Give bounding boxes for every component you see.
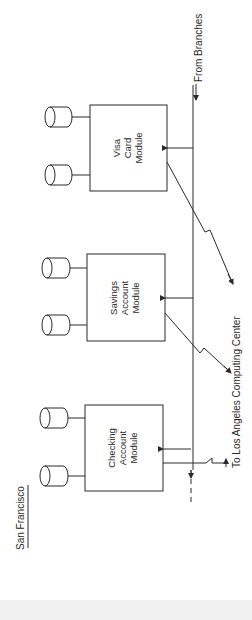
- checking-line-2: Account: [117, 430, 128, 465]
- visa-line-3: Module: [133, 132, 144, 163]
- disk-icon: [40, 408, 68, 428]
- to-la-label: To Los Angeles Computing Center: [231, 316, 242, 468]
- checking-line-3: Module: [128, 432, 139, 463]
- savings-line-1: Savings: [108, 281, 119, 315]
- disk-icon: [45, 107, 72, 127]
- savings-line-2: Account: [119, 280, 130, 315]
- disk-icon: [45, 165, 72, 185]
- location-label: San Francisco: [15, 486, 26, 550]
- visa-line-1: Visa: [111, 138, 122, 157]
- disk-icon: [42, 258, 70, 278]
- visa-module: [45, 105, 233, 284]
- savings-line-3: Module: [130, 282, 141, 313]
- bank-network-diagram: From Branches To Los Angeles Computing C…: [0, 0, 252, 620]
- from-branches-label: From Branches: [193, 14, 204, 82]
- checking-line-1: Checking: [106, 428, 117, 468]
- disk-icon: [42, 315, 70, 335]
- disk-icon: [40, 466, 68, 486]
- page-bottom-edge: [0, 600, 252, 620]
- visa-line-2: Card: [122, 138, 133, 159]
